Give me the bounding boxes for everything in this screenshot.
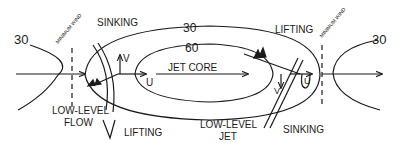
label-30-outer: 30 (183, 21, 197, 35)
label-sinking-top: SINKING (97, 17, 138, 28)
label-min-wind-right: MINIMUM WIND (318, 6, 347, 39)
label-min-wind-left: MINIMUM WIND (54, 12, 83, 45)
label-v-left: V (123, 53, 130, 64)
low-level-flow-v (103, 120, 115, 138)
label-lifting-top: LIFTING (275, 24, 314, 35)
left-isotach-30 (18, 45, 63, 110)
right-isotach-30 (333, 40, 380, 110)
label-30-right: 30 (372, 32, 386, 47)
label-sinking-bottom: SINKING (283, 124, 324, 135)
label-low-level-flow-2: FLOW (64, 117, 93, 128)
label-u-right: U (304, 76, 311, 86)
low-level-jet-line-1 (264, 58, 298, 128)
label-low-level-jet-2: JET (219, 131, 237, 142)
inner-isotach-60 (135, 44, 273, 102)
label-low-level-jet-1: LOW-LEVEL (200, 119, 257, 130)
label-60-inner: 60 (185, 41, 199, 55)
label-jet-core: JET CORE (168, 62, 218, 73)
label-lifting-bottom: LIFTING (124, 127, 163, 138)
barb-left (88, 79, 101, 86)
label-u-left: U (146, 77, 153, 88)
jet-streak-diagram: 30 30 60 30 MINIMUM WIND MINIMUM WIND SI… (0, 0, 401, 148)
label-30-left: 30 (14, 32, 28, 47)
label-v-right: V (274, 86, 280, 96)
label-low-level-flow-1: LOW-LEVEL (52, 105, 109, 116)
